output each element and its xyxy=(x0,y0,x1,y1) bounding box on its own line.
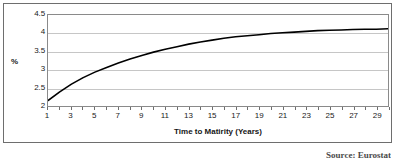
x-axis-tick-label: 29 xyxy=(367,111,387,121)
x-axis-tick-mark xyxy=(259,107,260,110)
x-axis-tick-mark xyxy=(47,107,48,110)
series-line-euro-area-yield-curve xyxy=(48,29,388,101)
y-axis-tick-label: 2 xyxy=(19,102,45,110)
x-axis-tick-mark xyxy=(177,107,178,110)
y-axis-tick-label: 4.5 xyxy=(19,10,45,18)
y-axis-tick-labels: 4.5 4 3.5 3 2.5 2 xyxy=(15,14,45,107)
x-axis-tick-mark xyxy=(153,107,154,110)
x-axis-tick-mark xyxy=(283,107,284,110)
x-axis-tick-mark xyxy=(354,107,355,110)
x-axis-tick-mark xyxy=(82,107,83,110)
x-axis-tick-label: 17 xyxy=(226,111,246,121)
x-axis-tick-mark xyxy=(118,107,119,110)
x-axis-tick-mark xyxy=(189,107,190,110)
x-axis-tick-mark xyxy=(318,107,319,110)
y-axis-tick-label: 3 xyxy=(19,65,45,73)
x-axis-tick-label: 1 xyxy=(37,111,57,121)
x-axis-tick-labels: 1357911131517192123252729 xyxy=(47,111,389,123)
x-axis-tick-mark xyxy=(141,107,142,110)
x-axis-tick-mark xyxy=(306,107,307,110)
x-axis-tick-mark xyxy=(342,107,343,110)
data-line-svg xyxy=(48,15,388,106)
x-axis-tick-label: 19 xyxy=(249,111,269,121)
x-axis-tick-mark xyxy=(236,107,237,110)
yield-curve-figure: % 4.5 4 3.5 3 2.5 2 13579111315171921232… xyxy=(0,0,399,161)
x-axis-tick-label: 11 xyxy=(155,111,175,121)
x-axis-tick-mark xyxy=(106,107,107,110)
x-axis-title: Time to Matirity (Years) xyxy=(47,127,389,136)
source-note: Source: Eurostat xyxy=(326,150,391,161)
y-axis-tick-label: 4 xyxy=(19,28,45,36)
x-axis-tick-mark xyxy=(389,107,390,110)
x-axis-tick-label: 21 xyxy=(273,111,293,121)
chart-canvas: % 4.5 4 3.5 3 2.5 2 13579111315171921232… xyxy=(3,3,392,143)
x-axis-tick-label: 3 xyxy=(61,111,81,121)
x-axis-tick-mark xyxy=(377,107,378,110)
x-axis-tick-label: 15 xyxy=(202,111,222,121)
y-axis-tick-label: 2.5 xyxy=(19,84,45,92)
x-axis-tick-mark xyxy=(271,107,272,110)
x-axis-tick-mark xyxy=(295,107,296,110)
x-axis-tick-label: 27 xyxy=(344,111,364,121)
x-axis-tick-mark xyxy=(224,107,225,110)
x-axis-tick-mark xyxy=(94,107,95,110)
x-axis-tick-mark xyxy=(330,107,331,110)
x-axis-tick-mark xyxy=(130,107,131,110)
x-axis-tick-label: 25 xyxy=(320,111,340,121)
x-axis-tick-label: 23 xyxy=(296,111,316,121)
x-axis-tick-mark xyxy=(247,107,248,110)
x-axis-tick-label: 9 xyxy=(131,111,151,121)
x-axis-tick-label: 7 xyxy=(108,111,128,121)
x-axis-tick-mark xyxy=(59,107,60,110)
x-axis-tick-mark xyxy=(165,107,166,110)
x-axis-tick-label: 13 xyxy=(179,111,199,121)
x-axis-tick-label: 5 xyxy=(84,111,104,121)
x-axis-tick-mark xyxy=(365,107,366,110)
y-axis-tick-label: 3.5 xyxy=(19,47,45,55)
plot-area xyxy=(47,14,389,107)
x-axis-tick-mark xyxy=(71,107,72,110)
x-axis-tick-mark xyxy=(200,107,201,110)
x-axis-tick-mark xyxy=(212,107,213,110)
